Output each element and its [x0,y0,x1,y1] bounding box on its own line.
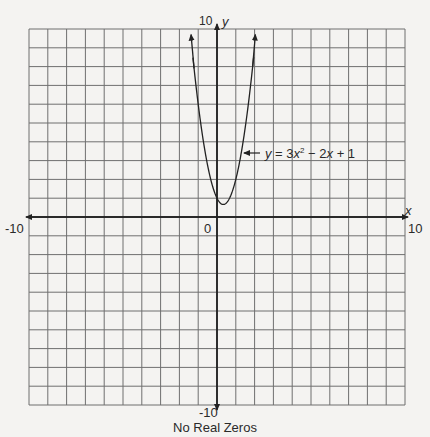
y-max-label: 10 [199,15,212,27]
x-max-label: 10 [408,222,422,235]
origin-label: 0 [204,222,211,235]
x-min-label: -10 [5,222,24,235]
y-min-label: -10 [199,406,218,419]
x-axis-label: x [405,204,412,217]
caption: No Real Zeros [0,420,430,435]
equation-label: y = 3x2 − 2x + 1 [265,147,355,160]
coordinate-plane [0,0,430,437]
curve-arrow-left [191,35,194,69]
y-axis-label: y [222,15,229,28]
graph-figure: 10 y x 10 -10 0 -10 y = 3x2 − 2x + 1 No … [0,0,430,437]
parabola-curve [193,57,254,204]
